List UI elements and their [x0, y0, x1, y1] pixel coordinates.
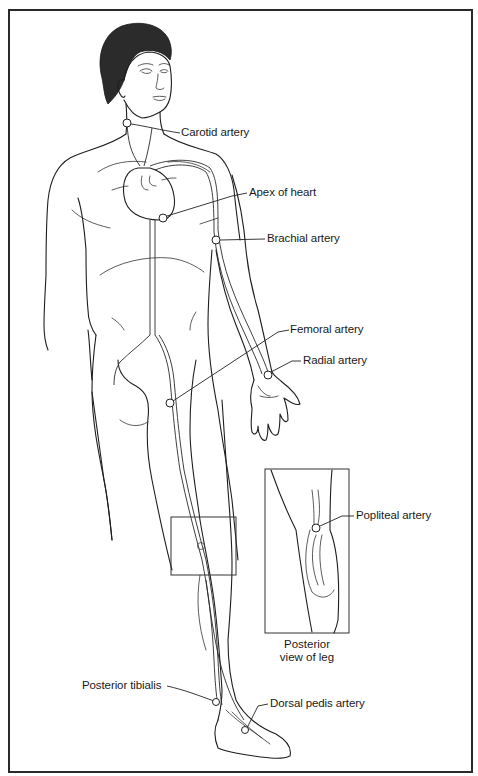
popliteal-point — [312, 524, 320, 532]
head — [100, 23, 171, 134]
femoral-point — [166, 399, 174, 407]
label-femoral-artery: Femoral artery — [290, 324, 363, 336]
brachial-point — [212, 236, 220, 244]
label-apex-of-heart: Apex of heart — [249, 187, 316, 199]
posterior-tibialis-point — [213, 699, 220, 706]
anatomy-illustration — [0, 0, 478, 776]
radial-point — [264, 371, 272, 379]
label-radial-artery: Radial artery — [303, 355, 367, 367]
label-dorsal-pedis-artery: Dorsal pedis artery — [270, 698, 365, 710]
label-carotid-artery: Carotid artery — [181, 127, 249, 139]
arterial-tree — [112, 123, 270, 744]
torso — [44, 134, 240, 560]
legs — [92, 360, 290, 758]
inset-caption-line2: view of leg — [262, 651, 352, 664]
label-posterior-tibialis: Posterior tibialis — [82, 680, 161, 692]
posterior-leg-inset — [265, 469, 349, 633]
dorsal-pedis-point — [242, 727, 249, 734]
right-arm — [216, 175, 300, 440]
label-popliteal-artery: Popliteal artery — [356, 510, 431, 522]
label-brachial-artery: Brachial artery — [267, 233, 340, 245]
inset-caption: Posterior view of leg — [262, 638, 352, 664]
carotid-point — [123, 119, 131, 127]
apex-point — [159, 214, 167, 222]
inset-caption-line1: Posterior — [262, 638, 352, 651]
